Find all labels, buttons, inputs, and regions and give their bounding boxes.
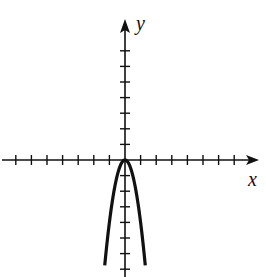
x-axis-label: x [247,168,257,190]
y-axis-label: y [134,12,145,35]
parabola-graph: x y [0,0,266,277]
x-axis [2,155,259,165]
